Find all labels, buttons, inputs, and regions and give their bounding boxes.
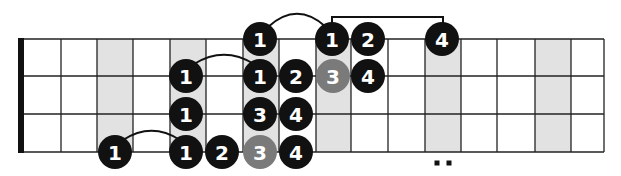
shaded-fret-15 bbox=[535, 39, 571, 152]
nut bbox=[18, 38, 24, 153]
note-dot-finger-1: 1 bbox=[169, 135, 203, 169]
slur-arc bbox=[268, 14, 326, 27]
finger-number: 4 bbox=[289, 103, 303, 127]
finger-number: 1 bbox=[179, 103, 193, 127]
note-dot-finger-4: 4 bbox=[425, 22, 459, 56]
finger-number: 2 bbox=[289, 65, 303, 89]
note-dot-finger-1: 1 bbox=[315, 22, 349, 56]
note-dot-finger-3: 3 bbox=[243, 97, 277, 131]
finger-number: 1 bbox=[325, 28, 339, 52]
finger-number: 2 bbox=[215, 141, 229, 165]
finger-number: 4 bbox=[289, 141, 303, 165]
note-dot-finger-4: 4 bbox=[351, 59, 385, 93]
shaded-fret-columns bbox=[97, 39, 571, 152]
finger-number: 3 bbox=[253, 103, 267, 127]
finger-number: 3 bbox=[326, 65, 340, 89]
position-bracket bbox=[332, 17, 443, 25]
finger-number: 2 bbox=[361, 28, 375, 52]
shaded-fret-5 bbox=[170, 39, 206, 152]
fretboard-diagram: 11241123413411234 bbox=[0, 0, 621, 176]
double-dot-marker bbox=[447, 161, 452, 166]
shaded-fret-9 bbox=[316, 39, 351, 152]
note-dot-finger-1: 1 bbox=[243, 59, 277, 93]
finger-number: 1 bbox=[108, 141, 122, 165]
finger-number: 4 bbox=[361, 65, 375, 89]
note-dot-finger-4: 4 bbox=[279, 97, 313, 131]
note-dot-finger-3: 3 bbox=[243, 135, 277, 169]
note-dot-finger-1: 1 bbox=[169, 59, 203, 93]
note-dot-finger-2: 2 bbox=[279, 59, 313, 93]
note-dot-finger-3: 3 bbox=[316, 59, 350, 93]
nut-bar bbox=[18, 38, 24, 153]
note-dot-finger-2: 2 bbox=[205, 135, 239, 169]
finger-number: 3 bbox=[253, 141, 267, 165]
note-dot-finger-4: 4 bbox=[279, 135, 313, 169]
finger-number: 1 bbox=[253, 28, 267, 52]
fret-position-markers bbox=[435, 161, 452, 166]
finger-number: 1 bbox=[179, 65, 193, 89]
note-dot-finger-1: 1 bbox=[243, 22, 277, 56]
finger-number: 4 bbox=[435, 28, 449, 52]
note-dot-finger-1: 1 bbox=[169, 97, 203, 131]
double-dot-marker bbox=[435, 161, 440, 166]
note-dot-finger-2: 2 bbox=[351, 22, 385, 56]
note-dot-finger-1: 1 bbox=[98, 135, 132, 169]
finger-number: 1 bbox=[253, 65, 267, 89]
finger-number: 1 bbox=[179, 141, 193, 165]
